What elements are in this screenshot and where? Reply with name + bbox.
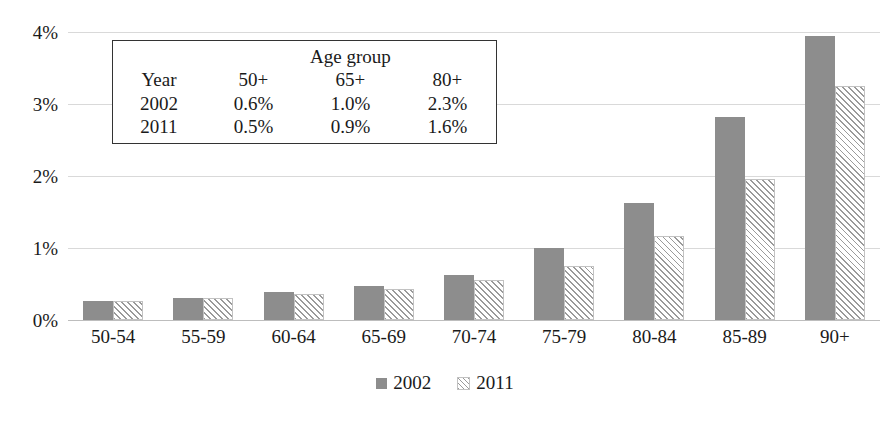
inset-col-80plus: 80+ (399, 68, 496, 91)
inset-table-span-header-row: Age group (113, 45, 496, 68)
bar-group-75-79 (519, 32, 609, 320)
bar-2011-70-74 (474, 280, 504, 320)
legend-swatch-2002-icon (376, 378, 387, 389)
bar-2002-80-84 (624, 203, 654, 320)
legend-item-2002: 2002 (376, 372, 431, 394)
y-axis-tick-1: 1% (0, 239, 58, 258)
bar-2011-85-89 (745, 179, 775, 320)
bar-2011-80-84 (654, 236, 684, 320)
inset-col-65plus: 65+ (302, 68, 399, 91)
x-axis-label-80-84: 80-84 (609, 326, 699, 348)
inset-cell-2002-80plus: 2.3% (399, 92, 496, 115)
inset-cell-year-2002: 2002 (113, 92, 205, 115)
inset-table-row: 2011 0.5% 0.9% 1.6% (113, 115, 496, 138)
x-axis-label-85-89: 85-89 (700, 326, 790, 348)
bar-group-85-89 (700, 32, 790, 320)
bar-2002-60-64 (264, 292, 294, 320)
bar-2011-60-64 (294, 294, 324, 320)
bar-2011-65-69 (384, 289, 414, 320)
inset-span-spacer (113, 45, 205, 68)
legend-item-2011: 2011 (457, 372, 513, 394)
x-axis-label-50-54: 50-54 (68, 326, 158, 348)
bar-2002-50-54 (83, 301, 113, 320)
inset-span-header-age-group: Age group (205, 45, 496, 68)
y-axis-tick-2: 2% (0, 167, 58, 186)
inset-summary-table: Age group Year 50+ 65+ 80+ 2002 0.6% 1.0… (112, 40, 497, 144)
bar-2011-90+ (835, 86, 865, 320)
bar-2002-70-74 (444, 275, 474, 320)
bar-group-80-84 (609, 32, 699, 320)
bar-2002-75-79 (534, 248, 564, 320)
inset-cell-year-2011: 2011 (113, 115, 205, 138)
inset-table-header-row: Year 50+ 65+ 80+ (113, 68, 496, 91)
legend-swatch-2011-icon (457, 377, 470, 390)
inset-col-50plus: 50+ (205, 68, 302, 91)
bar-2011-75-79 (564, 266, 594, 320)
chart-legend: 2002 2011 (0, 372, 890, 394)
bar-group-90+ (790, 32, 880, 320)
inset-cell-2011-80plus: 1.6% (399, 115, 496, 138)
inset-table: Age group Year 50+ 65+ 80+ 2002 0.6% 1.0… (113, 45, 496, 138)
y-axis-tick-4: 4% (0, 23, 58, 42)
gridline-0 (68, 320, 880, 321)
x-axis-label-55-59: 55-59 (158, 326, 248, 348)
x-axis-label-90+: 90+ (790, 326, 880, 348)
inset-cell-2002-65plus: 1.0% (302, 92, 399, 115)
inset-table-row: 2002 0.6% 1.0% 2.3% (113, 92, 496, 115)
bar-2002-85-89 (715, 117, 745, 320)
bar-chart: 4% 3% 2% 1% 0% 50-5455-5960-6465-6970-74… (0, 0, 890, 421)
x-axis-label-65-69: 65-69 (339, 326, 429, 348)
x-axis-label-75-79: 75-79 (519, 326, 609, 348)
bar-2002-55-59 (173, 298, 203, 320)
y-axis-tick-0: 0% (0, 311, 58, 330)
inset-cell-2011-65plus: 0.9% (302, 115, 399, 138)
bar-2002-65-69 (354, 286, 384, 320)
bar-2011-55-59 (203, 298, 233, 320)
bar-2011-50-54 (113, 301, 143, 320)
legend-label-2002: 2002 (393, 372, 431, 394)
inset-cell-2002-50plus: 0.6% (205, 92, 302, 115)
y-axis-tick-3: 3% (0, 95, 58, 114)
legend-label-2011: 2011 (476, 372, 513, 394)
x-axis-labels: 50-5455-5960-6465-6970-7475-7980-8485-89… (68, 326, 880, 348)
inset-cell-2011-50plus: 0.5% (205, 115, 302, 138)
inset-col-year: Year (113, 68, 205, 91)
x-axis-label-60-64: 60-64 (248, 326, 338, 348)
bar-2002-90+ (805, 36, 835, 320)
x-axis-label-70-74: 70-74 (429, 326, 519, 348)
